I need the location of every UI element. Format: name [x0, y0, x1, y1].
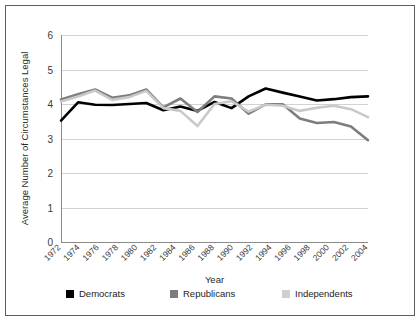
chart-figure: 0123456197219741976197819801982198419861… — [0, 0, 420, 321]
y-axis-title-group: Average Number of Circumstances Legal — [19, 52, 30, 226]
x-tick-label: 1978 — [100, 242, 121, 263]
legend-swatch-republicans — [170, 290, 178, 298]
x-tick-group: 1996 — [272, 242, 293, 263]
x-axis-title: Year — [205, 274, 224, 285]
y-tick-label: 2 — [47, 168, 53, 179]
y-tick-label: 3 — [47, 134, 53, 145]
x-tick-group: 1982 — [138, 242, 159, 263]
x-tick-group: 2002 — [330, 242, 351, 263]
x-tick-label: 1972 — [42, 242, 63, 263]
legend-label-democrats: Democrats — [79, 288, 125, 299]
x-tick-group: 1992 — [234, 242, 255, 263]
legend-swatch-independents — [282, 290, 290, 298]
x-tick-group: 2000 — [311, 242, 332, 263]
x-tick-group: 1994 — [253, 242, 274, 263]
x-tick-label: 1974 — [61, 242, 82, 263]
x-tick-label: 2004 — [349, 242, 370, 263]
line-chart: 0123456197219741976197819801982198419861… — [0, 0, 420, 321]
x-tick-label: 1982 — [138, 242, 159, 263]
x-tick-label: 1984 — [157, 242, 178, 263]
legend-label-independents: Independents — [295, 288, 353, 299]
x-tick-label: 1976 — [80, 242, 101, 263]
x-tick-group: 2004 — [349, 242, 370, 263]
legend-swatch-democrats — [66, 290, 74, 298]
x-tick-label: 1998 — [291, 242, 312, 263]
x-tick-label: 2002 — [330, 242, 351, 263]
y-axis-title: Average Number of Circumstances Legal — [19, 52, 30, 226]
x-tick-label: 1992 — [234, 242, 255, 263]
y-tick-label: 6 — [47, 30, 53, 41]
y-tick-label: 1 — [47, 203, 53, 214]
legend-label-republicans: Republicans — [183, 288, 236, 299]
x-tick-group: 1978 — [100, 242, 121, 263]
y-tick-label: 4 — [47, 99, 53, 110]
y-tick-label: 5 — [47, 65, 53, 76]
x-tick-group: 1984 — [157, 242, 178, 263]
x-tick-group: 1972 — [42, 242, 63, 263]
x-tick-label: 2000 — [311, 242, 332, 263]
x-tick-label: 1980 — [119, 242, 140, 263]
x-tick-label: 1990 — [215, 242, 236, 263]
x-tick-label: 1988 — [195, 242, 216, 263]
x-tick-group: 1990 — [215, 242, 236, 263]
x-tick-label: 1986 — [176, 242, 197, 263]
x-tick-label: 1994 — [253, 242, 274, 263]
x-tick-label: 1996 — [272, 242, 293, 263]
x-tick-group: 1986 — [176, 242, 197, 263]
x-tick-group: 1988 — [195, 242, 216, 263]
x-tick-group: 1976 — [80, 242, 101, 263]
x-tick-group: 1980 — [119, 242, 140, 263]
x-tick-group: 1998 — [291, 242, 312, 263]
x-tick-group: 1974 — [61, 242, 82, 263]
